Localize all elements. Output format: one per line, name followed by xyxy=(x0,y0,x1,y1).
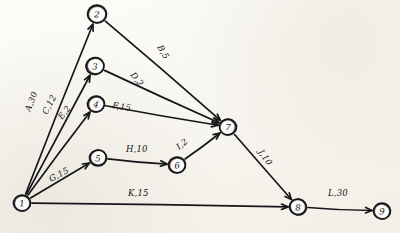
edge-label-K: K,15 xyxy=(127,188,149,198)
edge-1-to-4 xyxy=(28,112,90,195)
node-1[interactable]: 1 xyxy=(13,194,32,212)
edge-7-to-8 xyxy=(235,135,292,200)
edge-5-to-6 xyxy=(108,159,167,164)
edge-label-J: J,10 xyxy=(255,146,274,168)
node-label-3: 3 xyxy=(92,61,97,71)
edge-label-I: I,2 xyxy=(173,136,189,152)
node-label-1: 1 xyxy=(19,198,25,208)
edge-label-H: H,10 xyxy=(125,144,148,154)
edge-label-A: A,30 xyxy=(22,90,39,114)
node-5[interactable]: 5 xyxy=(89,148,108,166)
node-4[interactable]: 4 xyxy=(86,94,106,113)
edge-1-to-8 xyxy=(32,203,288,207)
node-3[interactable]: 3 xyxy=(84,56,105,76)
node-label-2: 2 xyxy=(93,9,100,19)
network-diagram-canvas: 123456789 A,30B,5C,12D,2E,2F,15G,15H,10I… xyxy=(0,0,400,233)
edge-8-to-9 xyxy=(308,207,372,210)
node-6[interactable]: 6 xyxy=(168,157,186,174)
edge-label-D: D,2 xyxy=(128,69,146,88)
edge-label-L: L,30 xyxy=(327,188,348,198)
edge-label-C: C,12 xyxy=(40,93,58,116)
edge-3-to-7 xyxy=(105,70,219,122)
edge-label-F: F,15 xyxy=(111,100,132,113)
node-label-5: 5 xyxy=(95,153,100,163)
node-9[interactable]: 9 xyxy=(373,203,391,221)
node-2[interactable]: 2 xyxy=(87,5,106,23)
edge-label-E: E,2 xyxy=(55,103,73,122)
node-label-8: 8 xyxy=(295,202,301,212)
edges-layer xyxy=(26,21,372,213)
edge-6-to-7 xyxy=(185,133,220,159)
node-label-4: 4 xyxy=(92,99,100,110)
node-7[interactable]: 7 xyxy=(218,118,237,136)
edge-label-B: B,5 xyxy=(155,42,172,61)
node-label-9: 9 xyxy=(379,206,385,216)
